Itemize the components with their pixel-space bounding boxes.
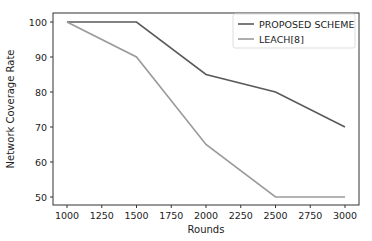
legend-label-proposed: PROPOSED SCHEME: [259, 19, 354, 30]
y-tick-label: 80: [35, 87, 47, 98]
line-chart: 100012501500175020002250250027503000 506…: [0, 0, 372, 241]
legend-label-leach: LEACH[8]: [259, 34, 304, 45]
x-tick-label: 1500: [124, 210, 148, 221]
legend: PROPOSED SCHEME LEACH[8]: [233, 14, 355, 48]
x-tick-label: 1000: [55, 210, 79, 221]
x-tick-label: 1750: [159, 210, 183, 221]
y-tick-label: 50: [35, 192, 47, 203]
y-tick-label: 70: [35, 122, 47, 133]
y-axis-ticks: 5060708090100: [29, 17, 53, 203]
x-axis-label: Rounds: [188, 224, 225, 235]
y-axis-label: Network Coverage Rate: [5, 50, 16, 169]
y-tick-label: 60: [35, 157, 47, 168]
x-tick-label: 2500: [263, 210, 287, 221]
x-tick-label: 2250: [229, 210, 253, 221]
x-axis-ticks: 100012501500175020002250250027503000: [55, 205, 357, 221]
y-tick-label: 90: [35, 52, 47, 63]
x-tick-label: 1250: [90, 210, 114, 221]
y-tick-label: 100: [29, 17, 47, 28]
x-tick-label: 2750: [298, 210, 322, 221]
x-tick-label: 3000: [333, 210, 357, 221]
x-tick-label: 2000: [194, 210, 218, 221]
